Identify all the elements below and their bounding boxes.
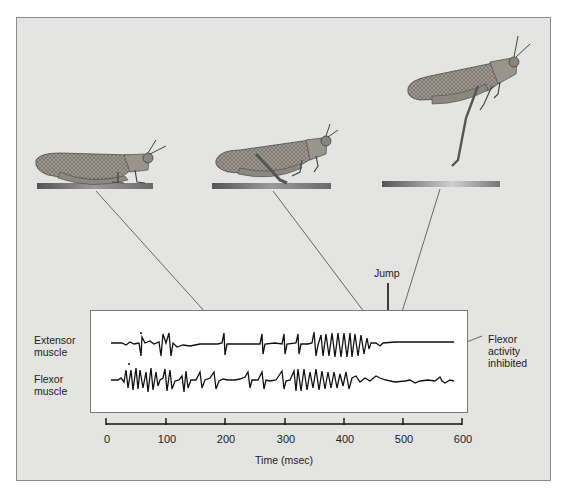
tick-label-400: 400 (336, 433, 354, 445)
tick-label-200: 200 (217, 433, 235, 445)
tick-label-600: 600 (454, 433, 472, 445)
tick-label-0: 0 (104, 433, 110, 445)
tick-label-300: 300 (277, 433, 295, 445)
time-axis (0, 0, 563, 496)
axis-title: Time (msec) (255, 454, 313, 466)
tick-label-500: 500 (395, 433, 413, 445)
tick-label-100: 100 (158, 433, 176, 445)
